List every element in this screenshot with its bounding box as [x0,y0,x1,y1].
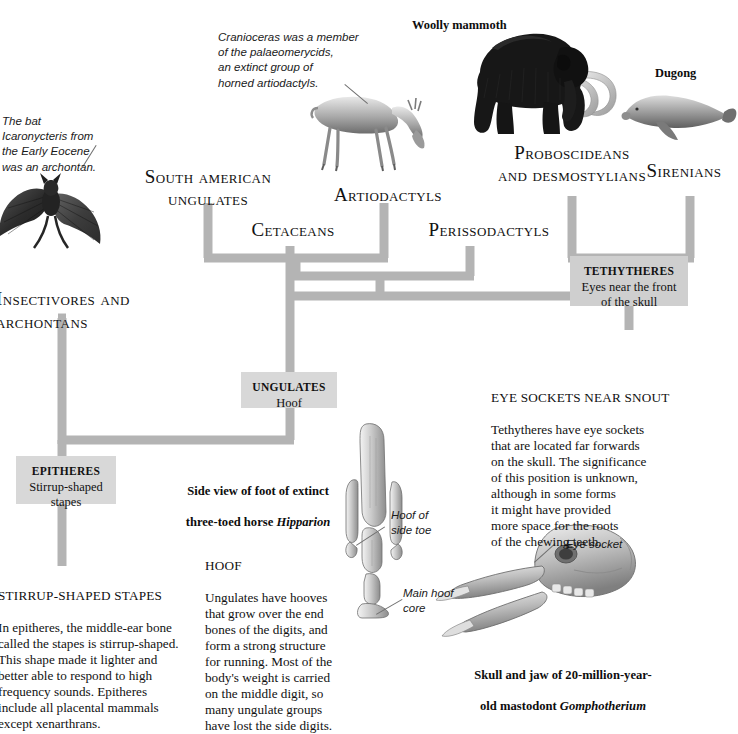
node-trait-tethytheres: Eyes near the front of the skull [576,280,682,311]
illustration-woolly-mammoth [452,18,642,140]
taxon-perissodactyls[interactable]: Perissodactyls [404,219,574,241]
text-block-heading-hoof: HOOF [205,558,365,574]
node-trait-epitheres: Stirrup-shaped stapes [22,480,110,511]
text-block-body-eye-sockets: Tethytheres have eye sockets that are lo… [491,422,646,549]
illustration-bat-icaronycteris [0,168,114,258]
text-block-heading-eye-sockets: EYE SOCKETS NEAR SNOUT [491,390,691,406]
text-block-eye-sockets-near-snout: EYE SOCKETS NEAR SNOUT Tethytheres have … [491,374,691,550]
annotation-bat-note: The bat Icaronycteris from the Early Eoc… [2,114,122,175]
taxon-insectivores-and-archontans[interactable]: Insectivores and archontans [0,288,166,334]
text-block-heading-stirrup-stapes: STIRRUP-SHAPED STAPES [0,588,194,604]
caption-gomphotherium-line2-plain: old mastodont [480,699,560,713]
caption-hipparion-foot: Side view of foot of extinct three-toed … [168,468,348,531]
node-box-epitheres[interactable]: EPITHERES Stirrup-shaped stapes [16,456,116,504]
taxon-sirenians[interactable]: Sirenians [634,160,734,182]
specimen-label-dugong: Dugong [655,66,696,81]
annotation-main-hoof-core: Main hoof core [403,586,473,616]
caption-gomphotherium-line1: Skull and jaw of 20-million-year- [474,668,651,682]
text-block-hoof: HOOF Ungulates have hooves that grow ove… [205,542,365,734]
caption-hipparion-line2-plain: three-toed horse [186,515,277,529]
annotation-hoof-of-side-toe: Hoof of side toe [391,508,461,538]
node-trait-ungulates: Hoof [247,396,331,411]
specimen-label-woolly-mammoth: Woolly mammoth [412,18,507,33]
node-box-tethytheres[interactable]: TETHYTHERES Eyes near the front of the s… [570,256,688,306]
annotation-cranioceras-note: Cranioceras was a member of the palaeome… [218,30,378,91]
node-title-epitheres: EPITHERES [32,465,101,477]
taxon-cetaceans[interactable]: Cetaceans [228,219,358,241]
caption-gomphotherium-skull: Skull and jaw of 20-million-year- old ma… [438,652,688,715]
illustration-cranioceras [300,78,430,178]
caption-hipparion-line1: Side view of foot of extinct [187,484,329,498]
node-title-tethytheres: TETHYTHERES [584,265,674,277]
taxon-south-american-ungulates[interactable]: South american ungulates [118,166,298,211]
text-block-stirrup-shaped-stapes: STIRRUP-SHAPED STAPES In epitheres, the … [0,572,194,732]
node-title-ungulates: UNGULATES [252,381,325,393]
caption-gomphotherium-genus: Gomphotherium [560,699,646,713]
caption-hipparion-genus: Hipparion [276,515,330,529]
text-block-body-hoof: Ungulates have hooves that grow over the… [205,590,332,733]
taxon-artiodactyls[interactable]: Artiodactyls [318,184,458,206]
text-block-body-stirrup-stapes: In epitheres, the middle-ear bone called… [0,620,179,731]
node-box-ungulates[interactable]: UNGULATES Hoof [241,372,337,408]
